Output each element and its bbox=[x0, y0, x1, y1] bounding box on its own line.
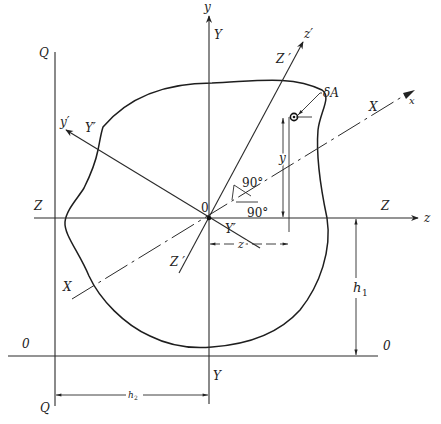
z-prime-label-bottom: Z ′ bbox=[169, 255, 185, 269]
element-center bbox=[293, 116, 296, 119]
z-prime-arrow-label: z′ bbox=[303, 27, 313, 41]
y-axis-arrow-label: y bbox=[203, 0, 211, 14]
z-axis-label-right: Z bbox=[380, 199, 390, 213]
h1-label: h 1 bbox=[350, 278, 368, 298]
delta-a-label: δA bbox=[323, 86, 339, 100]
x-axis-label-right: X bbox=[368, 100, 378, 114]
delta-a-leader bbox=[298, 93, 320, 115]
svg-text:1: 1 bbox=[362, 288, 368, 298]
z-axis-arrow-label: z bbox=[423, 211, 431, 225]
zero-label-left: 0 bbox=[22, 337, 30, 351]
y-prime-arrow-label: y′ bbox=[59, 115, 70, 129]
y-prime-label-bottom: Y′ bbox=[225, 222, 236, 236]
svg-text:2: 2 bbox=[134, 394, 138, 401]
angle-label-prime: 90° bbox=[242, 176, 263, 190]
section-diagram: y Y Y z Z Z z′ Z ′ Z ′ y′ Y′ Y′ x X X Q … bbox=[0, 0, 441, 424]
angle-label-yz: 90° bbox=[247, 206, 268, 220]
h2-label: h 2 bbox=[126, 388, 143, 402]
q-label-top: Q bbox=[39, 46, 49, 60]
y-prime-label-top: Y′ bbox=[85, 121, 96, 135]
x-axis bbox=[72, 95, 405, 299]
x-axis-label-left: X bbox=[62, 280, 72, 294]
z-dimension-label: z bbox=[237, 238, 244, 251]
y-axis-label-top: Y bbox=[214, 28, 223, 42]
y-dimension-label: y bbox=[278, 151, 286, 165]
origin-label: 0 bbox=[201, 201, 209, 215]
svg-text:h: h bbox=[353, 280, 361, 295]
q-label-bottom: Q bbox=[40, 401, 50, 415]
zero-label-right: 0 bbox=[383, 339, 391, 353]
z-prime-label-top: Z ′ bbox=[275, 52, 291, 66]
y-axis-label-bottom: Y bbox=[213, 369, 222, 383]
origin-point bbox=[207, 216, 212, 221]
svg-text:h: h bbox=[128, 390, 134, 400]
z-axis-label-left: Z bbox=[33, 199, 43, 213]
x-axis-arrow-label: x bbox=[409, 95, 415, 106]
